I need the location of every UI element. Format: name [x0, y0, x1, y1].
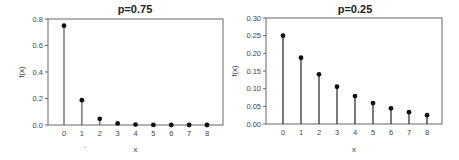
x-tick-label: 2	[317, 128, 321, 137]
plot-frame	[48, 19, 223, 125]
y-tick-label: 0.05	[246, 102, 261, 111]
x-tick-label: 0	[281, 128, 285, 137]
x-axis-label: x	[352, 145, 356, 154]
data-point	[281, 33, 286, 38]
data-point	[62, 23, 67, 28]
x-tick-label: 7	[187, 129, 191, 138]
data-point	[79, 98, 84, 103]
data-point	[335, 84, 340, 89]
x-tick-label: 5	[371, 128, 375, 137]
x-tick-label: 6	[169, 129, 173, 138]
x-tick-label: 6	[389, 128, 393, 137]
data-point	[151, 123, 156, 128]
data-point	[299, 55, 304, 60]
data-point	[371, 101, 376, 106]
data-point	[317, 72, 322, 77]
y-tick-label: 0.6	[33, 41, 43, 50]
data-point	[133, 122, 138, 127]
chart-title: p=0.25	[338, 3, 373, 15]
data-point	[169, 123, 174, 128]
data-point	[389, 106, 394, 111]
y-tick-label: 0.8	[33, 15, 43, 24]
x-tick-label: 4	[353, 128, 357, 137]
x-tick-label: 5	[151, 129, 155, 138]
y-tick-label: 0.10	[246, 84, 261, 93]
x-tick-label: 3	[335, 128, 339, 137]
x-axis-label: x	[134, 145, 138, 154]
y-axis-label: f(x)	[17, 66, 26, 78]
data-point	[205, 123, 210, 128]
x-tick-label: 8	[425, 128, 429, 137]
annotation-mark: ·	[84, 143, 87, 152]
x-tick-label: 1	[299, 128, 303, 137]
data-point	[353, 94, 358, 99]
y-tick-label: 0.30	[246, 14, 261, 23]
data-point	[115, 121, 120, 126]
x-tick-label: 0	[62, 129, 66, 138]
chart-title: p=0.75	[118, 3, 153, 15]
x-tick-label: 1	[80, 129, 84, 138]
plot-frame	[266, 18, 442, 124]
chart-p075-plot: p=0.750.00.20.40.60.8012345678xf(x)·	[0, 0, 230, 160]
data-point	[187, 123, 192, 128]
y-tick-label: 0.2	[33, 94, 43, 103]
y-tick-label: 0.25	[246, 31, 261, 40]
x-tick-label: 2	[98, 129, 102, 138]
x-tick-label: 8	[205, 129, 209, 138]
y-tick-label: 0.00	[246, 120, 261, 129]
x-tick-label: 3	[116, 129, 120, 138]
data-point	[425, 113, 430, 118]
chart-p025-plot: p=0.250.000.050.100.150.200.250.30012345…	[229, 0, 459, 160]
data-point	[97, 116, 102, 121]
y-tick-label: 0.4	[33, 68, 43, 77]
y-tick-label: 0.20	[246, 49, 261, 58]
chart-p025: p=0.250.000.050.100.150.200.250.30012345…	[229, 0, 459, 160]
y-axis-label: f(x)	[230, 65, 239, 77]
x-tick-label: 7	[407, 128, 411, 137]
chart-p075: p=0.750.00.20.40.60.8012345678xf(x)·	[0, 0, 230, 160]
y-tick-label: 0.0	[33, 121, 43, 130]
data-point	[407, 110, 412, 115]
y-tick-label: 0.15	[246, 67, 261, 76]
x-tick-label: 4	[133, 129, 137, 138]
